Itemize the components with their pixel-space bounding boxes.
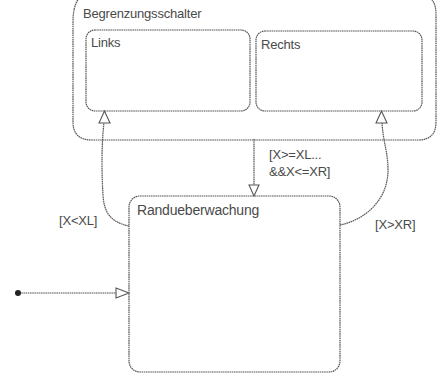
transition-label-to-rechts[interactable]: [X>XR] bbox=[375, 217, 415, 232]
state-randueberwachung[interactable] bbox=[129, 196, 340, 372]
arrowhead-up-rechts-icon bbox=[376, 111, 387, 123]
transition-to-links-line[interactable] bbox=[102, 118, 129, 226]
state-rechts[interactable] bbox=[256, 31, 422, 111]
arrowhead-up-links-icon bbox=[99, 111, 110, 123]
transition-label-to-links[interactable]: [X<XL] bbox=[59, 213, 97, 228]
transition-label-to-monitor-line1[interactable]: [X>=XL... bbox=[269, 147, 321, 162]
transition-to-rechts-line[interactable] bbox=[340, 118, 388, 225]
arrowhead-right-initial-icon bbox=[116, 288, 129, 298]
state-begrenzungsschalter-label: Begrenzungsschalter bbox=[83, 6, 201, 21]
arrowhead-down-icon bbox=[249, 185, 259, 196]
transition-label-to-monitor-line2[interactable]: &&X<=XR] bbox=[269, 164, 330, 179]
state-links[interactable] bbox=[86, 30, 250, 111]
initial-state-dot-icon bbox=[15, 290, 21, 296]
